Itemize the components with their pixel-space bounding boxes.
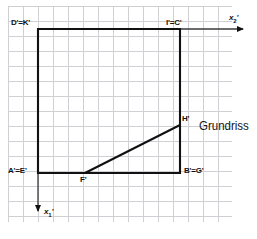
figure-canvas: D'=K' I'=C' A'=E' B'=G' H' F' x2' x1' Gr… [0, 0, 257, 239]
point-label-a-e: A'=E' [8, 167, 27, 175]
edge-f-h [85, 125, 180, 173]
point-label-i-c: I'=C' [166, 19, 181, 27]
point-label-b-g: B'=G' [184, 167, 203, 175]
axis-label-x1-prime: ' [51, 207, 53, 216]
point-label-h: H' [182, 115, 189, 123]
point-label-d-k: D'=K' [11, 19, 30, 27]
point-label-f: F' [80, 176, 86, 184]
axis-label-x2: x2' [229, 14, 238, 24]
axis-label-x1: x1' [44, 208, 53, 218]
axis-label-x2-prime: ' [236, 13, 238, 22]
view-name-label: Grundriss [199, 119, 249, 133]
plan-square-outline [38, 29, 180, 173]
